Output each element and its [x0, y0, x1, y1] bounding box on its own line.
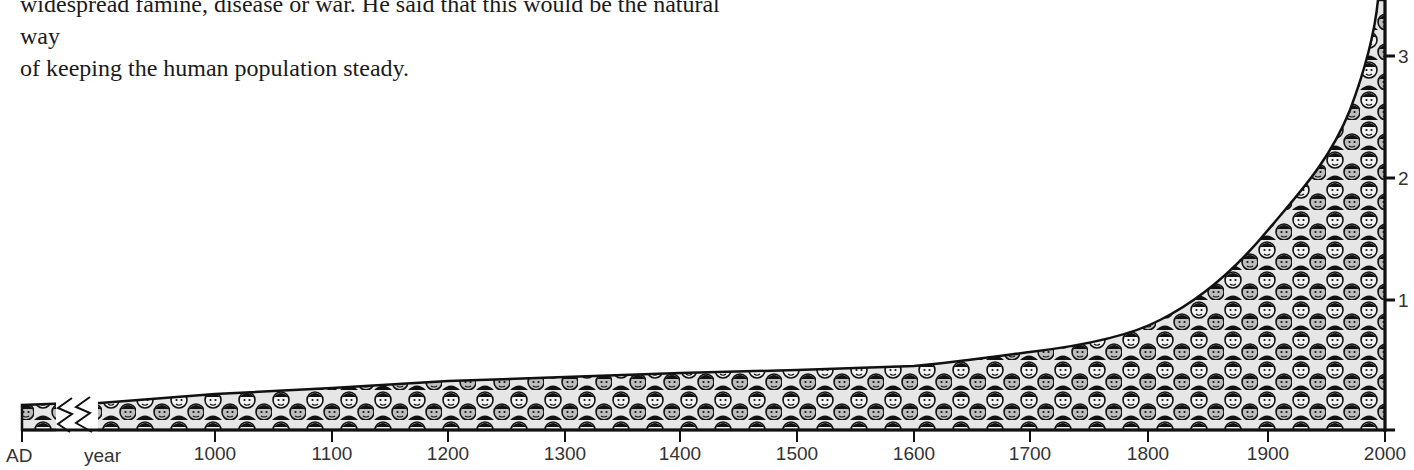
x-tick-label: 1000	[194, 443, 236, 464]
x-tick-label: 1900	[1247, 443, 1289, 464]
y-tick-label: 2	[1398, 168, 1409, 189]
x-tick-label: 1100	[312, 443, 353, 464]
x-axis-unit-label: year	[84, 445, 122, 466]
population-area	[22, 0, 1385, 430]
y-tick-label: 3	[1398, 46, 1409, 67]
x-tick-label: 1400	[659, 443, 701, 464]
x-tick-label: 2000	[1364, 443, 1406, 464]
x-tick-label: 1300	[544, 443, 586, 464]
x-axis-ticks	[215, 430, 1385, 442]
axis-break-icon	[56, 397, 98, 432]
population-chart: AD year 1000 1100 1200 1300 1400 1500 16…	[0, 0, 1414, 470]
x-tick-label: 1200	[427, 443, 469, 464]
x-axis-start-label: AD	[6, 445, 32, 466]
x-tick-label: 1600	[893, 443, 935, 464]
x-tick-label: 1800	[1127, 443, 1169, 464]
x-tick-label: 1700	[1009, 443, 1051, 464]
y-tick-label: 1	[1398, 290, 1409, 311]
x-tick-label: 1500	[776, 443, 818, 464]
